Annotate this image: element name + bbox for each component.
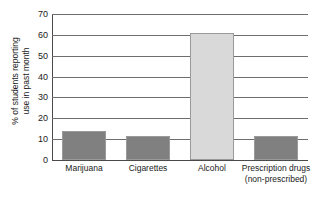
y-tick-label-30: 30 (26, 93, 48, 102)
bar-series (52, 14, 308, 160)
bar (190, 33, 234, 160)
bar-chart: % of students reporting use in past mont… (0, 0, 316, 198)
y-tick-label-20: 20 (26, 114, 48, 123)
bar-slot (180, 14, 244, 160)
bar-slot (244, 14, 308, 160)
x-tick-label: Prescription drugs(non-prescribed) (230, 163, 316, 185)
x-axis-tick-labels: MarijuanaCigarettesAlcoholPrescription d… (52, 163, 308, 197)
plot-area (52, 14, 308, 160)
y-tick-label-60: 60 (26, 30, 48, 39)
bar-slot (52, 14, 116, 160)
y-tick-label-50: 50 (26, 51, 48, 60)
y-axis-title-line-1: % of students reporting (10, 37, 21, 124)
y-tick-label-10: 10 (26, 135, 48, 144)
y-tick-label-70: 70 (26, 10, 48, 19)
bar (254, 136, 298, 160)
bar (126, 136, 170, 160)
x-tick-label-line: (non-prescribed) (230, 174, 316, 185)
bar (62, 131, 106, 160)
y-tick-label-40: 40 (26, 72, 48, 81)
x-tick-label-line: Prescription drugs (230, 163, 316, 174)
axis-baseline (52, 160, 308, 161)
bar-slot (116, 14, 180, 160)
